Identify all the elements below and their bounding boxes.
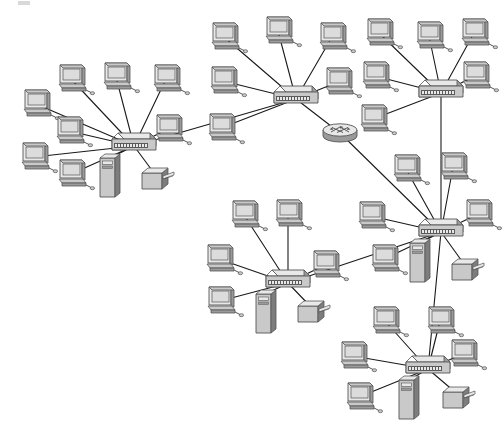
workstation-icon[interactable] xyxy=(55,63,95,95)
workstation-icon[interactable] xyxy=(424,305,464,337)
printer-icon[interactable] xyxy=(441,382,477,412)
server-icon[interactable] xyxy=(407,237,433,285)
workstation-icon[interactable] xyxy=(355,200,395,232)
workstation-icon[interactable] xyxy=(462,198,502,230)
workstation-icon[interactable] xyxy=(100,61,140,93)
workstation-icon[interactable] xyxy=(152,113,192,145)
workstation-icon[interactable] xyxy=(437,151,477,183)
workstation-icon[interactable] xyxy=(203,243,243,275)
workstation-icon[interactable] xyxy=(363,17,403,49)
workstation-icon[interactable] xyxy=(359,60,399,92)
workstation-icon[interactable] xyxy=(228,199,268,231)
workstation-icon[interactable] xyxy=(150,63,190,95)
workstation-icon[interactable] xyxy=(18,141,58,173)
workstation-icon[interactable] xyxy=(204,285,244,317)
workstation-icon[interactable] xyxy=(343,381,383,413)
workstation-icon[interactable] xyxy=(459,60,499,92)
printer-icon[interactable] xyxy=(296,296,332,326)
server-icon[interactable] xyxy=(97,152,123,200)
workstation-icon[interactable] xyxy=(262,15,302,47)
workstation-icon[interactable] xyxy=(390,153,430,185)
workstation-icon[interactable] xyxy=(309,249,349,281)
workstation-icon[interactable] xyxy=(55,158,95,190)
workstation-icon[interactable] xyxy=(357,103,397,135)
switch-top-right-lan[interactable] xyxy=(417,76,465,102)
workstation-icon[interactable] xyxy=(337,340,377,372)
switch-top-center-lan[interactable] xyxy=(272,82,320,108)
workstation-icon[interactable] xyxy=(207,65,247,97)
workstation-icon[interactable] xyxy=(208,21,248,53)
workstation-icon[interactable] xyxy=(272,198,312,230)
workstation-icon[interactable] xyxy=(458,17,498,49)
workstation-icon[interactable] xyxy=(322,66,362,98)
workstation-icon[interactable] xyxy=(316,21,356,53)
printer-icon[interactable] xyxy=(450,254,486,284)
workstation-icon[interactable] xyxy=(368,243,408,275)
workstation-icon[interactable] xyxy=(53,115,93,147)
router-icon[interactable] xyxy=(321,121,359,145)
workstation-icon[interactable] xyxy=(413,20,453,52)
workstation-icon[interactable] xyxy=(447,338,487,370)
printer-icon[interactable] xyxy=(140,163,176,193)
server-icon[interactable] xyxy=(253,288,279,336)
workstation-icon[interactable] xyxy=(369,305,409,337)
workstation-icon[interactable] xyxy=(205,112,245,144)
server-icon[interactable] xyxy=(396,374,422,422)
